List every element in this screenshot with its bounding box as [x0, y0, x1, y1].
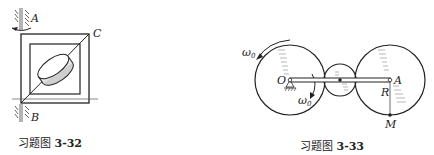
label-M: M	[384, 118, 397, 131]
figure-3-33: ω0 ω0 O A R	[180, 0, 434, 155]
label-O: O	[277, 74, 286, 87]
gyroscope-frame-diagram: A C B	[0, 0, 140, 155]
figure-3-32: A C B 习题图 3-32	[0, 0, 140, 155]
label-A: A	[393, 74, 402, 87]
label-omega-inner: ω0	[298, 94, 312, 108]
top-bearing-icon	[15, 8, 29, 30]
label-B: B	[30, 111, 39, 124]
label-A: A	[30, 12, 39, 25]
bottom-bearing-icon	[15, 104, 29, 122]
caption-3-33: 习题图 3-33	[300, 137, 364, 153]
point-M	[388, 113, 392, 117]
label-C: C	[93, 27, 102, 40]
omega-inner-arrow-icon	[310, 92, 315, 99]
planetary-gear-diagram: ω0 ω0 O A R	[180, 0, 434, 155]
caption-3-32: 习题图 3-32	[18, 134, 82, 150]
label-omega-outer: ω0	[242, 46, 256, 60]
label-R: R	[380, 86, 389, 99]
